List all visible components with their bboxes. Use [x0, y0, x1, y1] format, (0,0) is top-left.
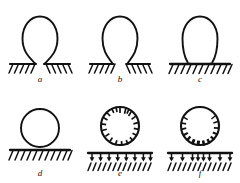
panel-f: f — [160, 92, 240, 183]
panel-d-label: d — [0, 168, 80, 178]
figure-panel-grid: a — [0, 0, 240, 183]
panel-c: c — [160, 0, 240, 91]
panel-e: e — [80, 92, 160, 183]
panel-d: d — [0, 92, 80, 183]
panel-b: b — [80, 0, 160, 91]
panel-b-label: b — [80, 74, 160, 84]
panel-c-label: c — [160, 74, 240, 84]
panel-e-label: e — [80, 168, 160, 178]
pressure-arrows — [90, 153, 153, 161]
panel-f-label: f — [160, 168, 240, 178]
panel-a: a — [0, 0, 80, 91]
panel-a-label: a — [0, 74, 80, 84]
pressure-arrows — [169, 153, 232, 161]
